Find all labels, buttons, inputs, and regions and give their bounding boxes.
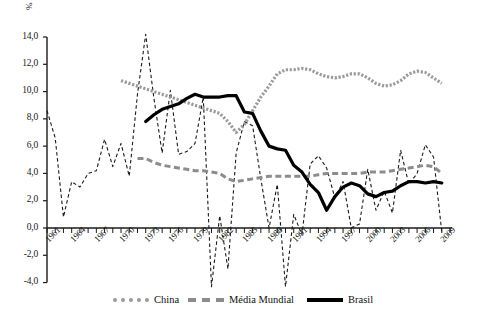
series-line-brasil	[146, 94, 442, 210]
y-tick-label: 12,0	[4, 58, 38, 68]
y-tick-label: 10,0	[4, 85, 38, 95]
y-tick-label: -2,0	[4, 249, 38, 259]
y-tick-label: 4,0	[4, 167, 38, 177]
y-tick-label: 0,0	[4, 222, 38, 232]
legend-item-media-mundial: Média Mundial	[188, 294, 294, 305]
legend-swatch-media-mundial	[188, 298, 224, 302]
series-line-china	[121, 68, 442, 132]
y-tick-label: 6,0	[4, 140, 38, 150]
legend-item-brasil: Brasil	[307, 294, 373, 305]
legend-swatch-brasil	[307, 298, 343, 302]
y-tick-label: -4,0	[4, 276, 38, 286]
y-tick-label: 14,0	[4, 31, 38, 41]
legend-label-media-mundial: Média Mundial	[229, 294, 294, 305]
legend-label-china: China	[154, 294, 179, 305]
y-tick-label: 2,0	[4, 194, 38, 204]
series-line-brasil-anual	[47, 34, 442, 286]
legend-label-brasil: Brasil	[348, 294, 373, 305]
chart-figure: % 14,012,010,08,06,04,02,00,0-2,0-4,0 19…	[0, 0, 477, 311]
legend-item-china: China	[113, 294, 179, 305]
chart-plot-area	[0, 0, 477, 311]
series-line-m-dia-mundial	[137, 158, 441, 181]
axes	[43, 37, 452, 283]
y-tick-label: 8,0	[4, 112, 38, 122]
legend-swatch-china	[113, 298, 149, 302]
